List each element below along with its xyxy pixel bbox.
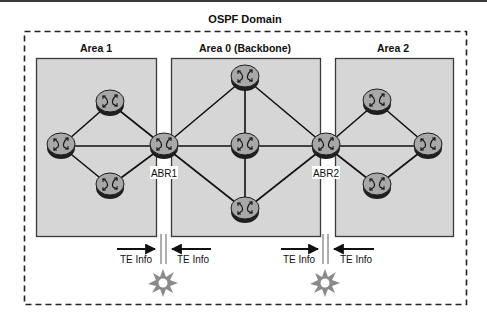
- area1-title: Area 1: [80, 42, 112, 54]
- router-icon: [47, 133, 75, 159]
- router-icon: [96, 90, 124, 116]
- router-icon: [231, 133, 259, 159]
- te-info-label: TE Info: [177, 254, 210, 265]
- router-icon: [231, 197, 259, 223]
- abr2-label: ABR2: [313, 168, 340, 179]
- area0-title: Area 0 (Backbone): [199, 42, 291, 54]
- area2-title: Area 2: [377, 42, 409, 54]
- te-info-label: TE Info: [283, 254, 316, 265]
- router-icon: [414, 133, 442, 159]
- router-icon: [363, 89, 391, 115]
- te-info-label: TE Info: [340, 254, 373, 265]
- abr1-router-icon: [150, 133, 178, 159]
- router-icon: [231, 65, 259, 91]
- router-icon: [363, 173, 391, 199]
- ospf-diagram: OSPF Domain Area 1 Area 0 (Backbone) Are…: [0, 0, 487, 324]
- starburst-icon: [310, 269, 340, 297]
- abr2-router-icon: [312, 133, 340, 159]
- starburst-icon: [148, 269, 178, 297]
- te-info-label: TE Info: [120, 254, 153, 265]
- domain-title: OSPF Domain: [208, 13, 282, 25]
- abr1-label: ABR1: [151, 168, 178, 179]
- router-icon: [96, 173, 124, 199]
